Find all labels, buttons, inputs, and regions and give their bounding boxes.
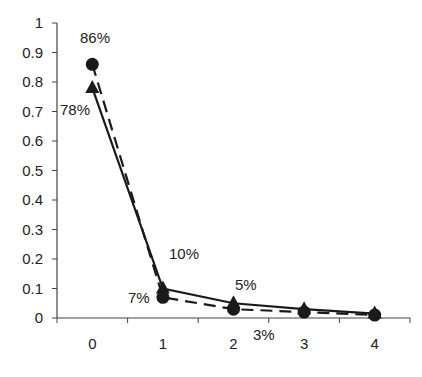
annotation-10: 10% [169, 245, 199, 262]
annotation-86: 86% [80, 29, 110, 46]
triangle-marker [156, 281, 170, 294]
annotation-5: 5% [235, 276, 257, 293]
y-tick-label: 0.4 [22, 191, 43, 208]
series-group [85, 58, 381, 322]
y-tick-label: 0.9 [22, 44, 43, 61]
y-tick-label: 0 [35, 309, 43, 326]
x-tick-label: 1 [159, 335, 167, 352]
y-axis-ticks: 00.10.20.30.40.50.60.70.80.91 [22, 14, 57, 326]
y-tick-label: 0.8 [22, 73, 43, 90]
axes [57, 23, 410, 318]
y-tick-label: 1 [35, 14, 43, 31]
x-tick-label: 2 [229, 335, 237, 352]
y-tick-label: 0.7 [22, 103, 43, 120]
line-chart: 00.10.20.30.40.50.60.70.80.91 01234 86% … [0, 0, 422, 377]
x-tick-label: 4 [371, 335, 379, 352]
y-tick-label: 0.6 [22, 132, 43, 149]
annotation-3: 3% [253, 326, 275, 343]
circle-marker [86, 58, 99, 71]
annotation-7: 7% [128, 289, 150, 306]
x-tick-label: 0 [88, 335, 96, 352]
y-tick-label: 0.5 [22, 162, 43, 179]
x-axis-ticks: 01234 [57, 318, 410, 352]
x-tick-label: 3 [300, 335, 308, 352]
annotation-78: 78% [60, 101, 90, 118]
y-tick-label: 0.1 [22, 280, 43, 297]
triangle-marker [85, 80, 99, 93]
circle-dashed-line [92, 64, 374, 315]
y-tick-label: 0.3 [22, 221, 43, 238]
y-tick-label: 0.2 [22, 250, 43, 267]
